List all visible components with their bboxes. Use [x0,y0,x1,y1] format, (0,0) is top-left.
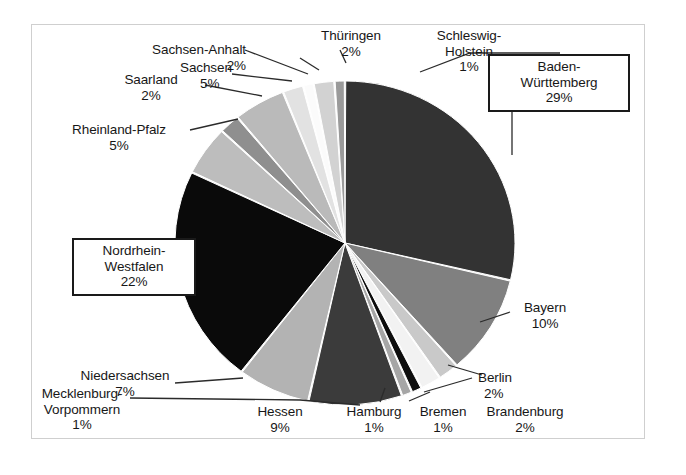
slice-label-bayern-pct: 10% [502,316,588,332]
slice-label-brandenburg-pct: 2% [466,420,584,436]
slice-label-saarland-pct: 2% [103,88,199,104]
slice-label-baden-wuerttemberg-name1: Baden- [498,59,620,75]
leader-line-baden-wuerttemberg [498,110,512,155]
leader-line-brandenburg [448,365,482,375]
slice-label-thueringen: Thüringen 2% [308,28,394,59]
slice-label-hessen-pct: 9% [240,420,320,436]
slice-label-nordrhein-westfalen-name1: Nordrhein- [82,243,186,259]
slice-label-nordrhein-westfalen: Nordrhein- Westfalen 22% [72,238,196,296]
slice-label-saarland-name: Saarland [103,72,199,88]
slice-label-mecklenburg-vorpommern: Mecklenburg- Vorpommern 1% [22,386,142,433]
pie-chart-figure: Thüringen 2% Schleswig- Holstein 1% Bade… [0,0,686,475]
slice-label-saarland: Saarland 2% [103,72,199,103]
slice-label-brandenburg-name: Brandenburg [466,404,584,420]
slice-label-brandenburg: Brandenburg 2% [466,404,584,435]
slice-label-nordrhein-westfalen-name2: Westfalen [82,259,186,275]
slice-label-rheinland-pfalz: Rheinland-Pfalz 5% [48,122,190,153]
leader-line-sachsen-anhalt-tail [300,58,319,70]
slice-label-sachsen-anhalt-name: Sachsen-Anhalt [108,42,246,58]
slice-label-rheinland-pfalz-name: Rheinland-Pfalz [48,122,190,138]
slice-label-baden-wuerttemberg: Baden- Württemberg 29% [488,54,630,112]
slice-label-nordrhein-westfalen-pct: 22% [82,274,186,290]
pie-slices-group [175,81,515,405]
slice-label-baden-wuerttemberg-name2: Württemberg [498,75,620,91]
slice-label-mecklenburg-vorpommern-pct: 1% [22,417,142,433]
leader-line-bremen [409,392,430,401]
slice-label-baden-wuerttemberg-pct: 29% [498,90,620,106]
slice-label-hessen-name: Hessen [240,404,320,420]
slice-label-thueringen-pct: 2% [308,44,394,60]
slice-label-berlin-pct: 2% [478,386,552,402]
slice-label-bayern-name: Bayern [502,300,588,316]
slice-label-thueringen-name: Thüringen [308,28,394,44]
slice-label-berlin: Berlin 2% [478,370,552,401]
slice-label-mecklenburg-vorpommern-name2: Vorpommern [22,402,142,418]
slice-label-niedersachsen-name: Niedersachsen [60,368,190,384]
slice-label-schleswig-holstein-name1: Schleswig- [414,28,524,44]
slice-label-mecklenburg-vorpommern-name1: Mecklenburg- [22,386,142,402]
slice-label-bayern: Bayern 10% [502,300,588,331]
slice-label-hessen: Hessen 9% [240,404,320,435]
slice-label-berlin-name: Berlin [478,370,552,386]
slice-label-rheinland-pfalz-pct: 5% [48,138,190,154]
